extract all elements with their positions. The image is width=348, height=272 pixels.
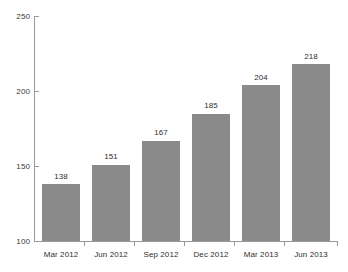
x-axis-tick (337, 241, 338, 246)
y-axis-tick-label: 100 (0, 237, 30, 246)
x-axis-category-label: Jun 2012 (86, 250, 136, 260)
bar-value-label: 204 (242, 73, 280, 82)
x-axis-tick (234, 241, 235, 246)
bar (292, 64, 330, 241)
bar-value-label: 138 (42, 172, 80, 181)
x-axis-tick (84, 241, 85, 246)
bar (42, 184, 80, 241)
x-axis-line (34, 241, 338, 242)
y-axis-tick-label: 250 (0, 12, 30, 21)
y-axis-tick (34, 166, 39, 167)
y-axis-tick-label: 150 (0, 162, 30, 171)
bar (142, 141, 180, 242)
x-axis-category-label: Mar 2012 (36, 250, 86, 260)
bar-value-label: 151 (92, 152, 130, 161)
y-axis-tick-label: 200 (0, 87, 30, 96)
bar (192, 114, 230, 242)
plot-area: 100 150 200 250 138 151 167 185 204 218 … (0, 0, 348, 272)
y-axis-tick (34, 91, 39, 92)
bar-value-label: 218 (292, 52, 330, 61)
x-axis-tick (284, 241, 285, 246)
bar-value-label: 185 (192, 101, 230, 110)
x-axis-category-label: Mar 2013 (236, 250, 286, 260)
x-axis-category-label: Jun 2013 (286, 250, 336, 260)
bar-chart: 100 150 200 250 138 151 167 185 204 218 … (0, 0, 348, 272)
bar-value-label: 167 (142, 128, 180, 137)
bar (92, 165, 130, 242)
x-axis-category-label: Sep 2012 (136, 250, 186, 260)
bar (242, 85, 280, 241)
x-axis-tick (184, 241, 185, 246)
y-axis-tick (34, 16, 39, 17)
y-axis-line (34, 16, 35, 242)
x-axis-category-label: Dec 2012 (186, 250, 236, 260)
x-axis-tick (134, 241, 135, 246)
